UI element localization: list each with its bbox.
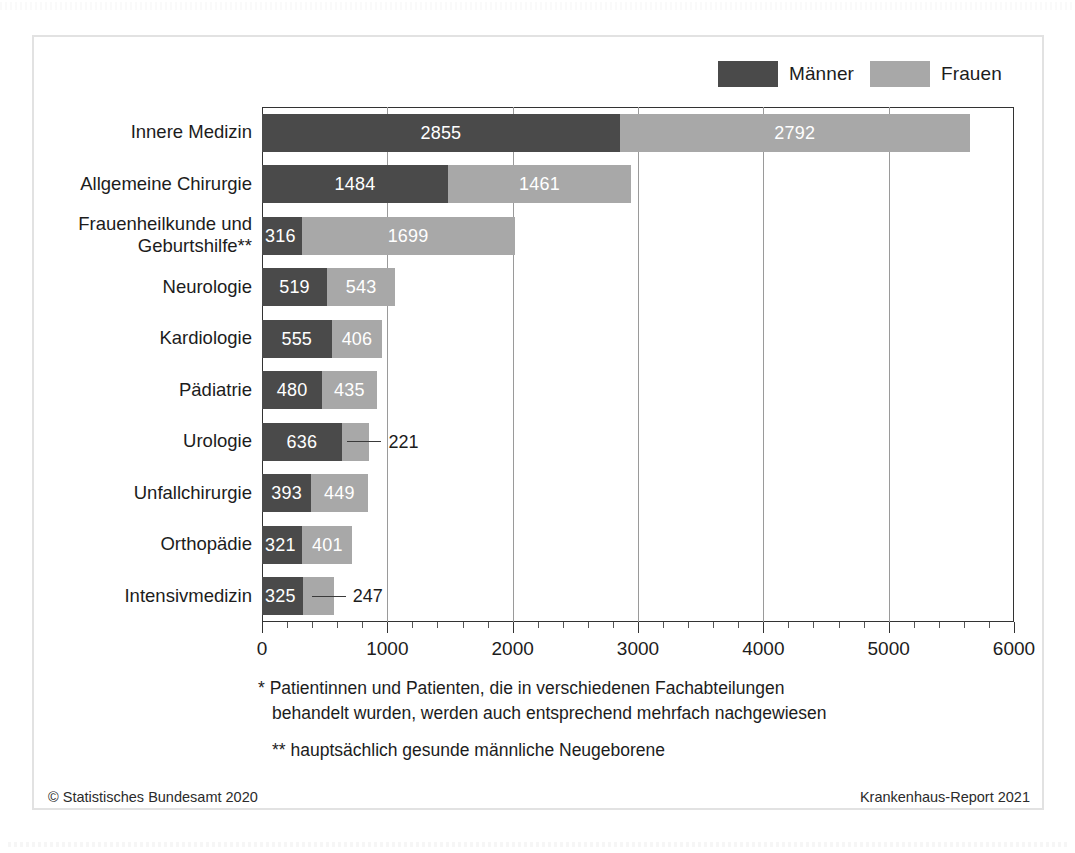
- bar-value-label: 393: [262, 484, 311, 502]
- x-tick-label-0: 0: [257, 638, 268, 660]
- callout-value-label: 221: [388, 433, 418, 451]
- x-tick-minor-400: [312, 622, 313, 628]
- footnote-one: * Patientinnen und Patienten, die in ver…: [258, 676, 958, 726]
- chart-legend: Männer Frauen: [718, 61, 1002, 87]
- y-axis-label-line: Orthopädie: [12, 533, 252, 556]
- bar-segment-männer[interactable]: 393: [262, 474, 311, 512]
- x-tick-minor-1800: [488, 622, 489, 628]
- bar-value-label: 2792: [620, 124, 970, 142]
- bar-value-label: 325: [262, 587, 303, 605]
- bar-segment-männer[interactable]: 555: [262, 320, 332, 358]
- y-axis-label-p-diatrie: Pädiatrie: [12, 379, 252, 402]
- bar-row[interactable]: 555406: [262, 320, 382, 358]
- x-tick-minor-4800: [864, 622, 865, 628]
- x-tick-minor-2800: [613, 622, 614, 628]
- bar-segment-männer[interactable]: 519: [262, 268, 327, 306]
- bar-value-label: 1484: [262, 175, 448, 193]
- x-tick-minor-5200: [914, 622, 915, 628]
- bar-row[interactable]: 14841461: [262, 165, 631, 203]
- x-tick-minor-2200: [538, 622, 539, 628]
- y-axis-label-line: Intensivmedizin: [12, 585, 252, 608]
- x-tick-major-0: [262, 622, 263, 633]
- x-tick-label-5000: 5000: [868, 638, 910, 660]
- bar-value-label: 519: [262, 278, 327, 296]
- x-tick-minor-800: [362, 622, 363, 628]
- bar-segment-frauen[interactable]: [303, 577, 334, 615]
- x-tick-label-4000: 4000: [742, 638, 784, 660]
- y-axis-label-innere-medizin: Innere Medizin: [12, 121, 252, 144]
- y-axis-label-line: Frauenheilkunde und: [12, 213, 252, 236]
- legend-entry-frauen: Frauen: [870, 61, 1002, 87]
- bar-row[interactable]: 3161699: [262, 217, 515, 255]
- x-tick-minor-4600: [839, 622, 840, 628]
- x-axis: 0100020003000400050006000: [262, 622, 1014, 668]
- legend-swatch-frauen: [870, 61, 930, 87]
- x-tick-minor-200: [287, 622, 288, 628]
- x-tick-major-4000: [763, 622, 764, 633]
- bar-segment-männer[interactable]: 325: [262, 577, 303, 615]
- x-tick-minor-5400: [939, 622, 940, 628]
- x-tick-label-1000: 1000: [366, 638, 408, 660]
- y-axis-label-line: Neurologie: [12, 276, 252, 299]
- legend-label-frauen: Frauen: [941, 63, 1002, 85]
- y-axis-label-urologie: Urologie: [12, 430, 252, 453]
- bar-segment-frauen[interactable]: 406: [332, 320, 383, 358]
- bar-segment-männer[interactable]: 316: [262, 217, 302, 255]
- bar-row[interactable]: 393449: [262, 474, 368, 512]
- bar-row[interactable]: 480435: [262, 371, 377, 409]
- bar-segment-frauen[interactable]: 2792: [620, 114, 970, 152]
- y-axis-label-line: Innere Medizin: [12, 121, 252, 144]
- bar-value-label: 401: [302, 536, 352, 554]
- footnote-one-line-a: * Patientinnen und Patienten, die in ver…: [258, 678, 784, 698]
- x-tick-minor-1600: [463, 622, 464, 628]
- bar-segment-männer[interactable]: 2855: [262, 114, 620, 152]
- x-tick-minor-1200: [412, 622, 413, 628]
- y-axis-label-line: Kardiologie: [12, 327, 252, 350]
- bar-segment-frauen[interactable]: 449: [311, 474, 367, 512]
- credits-row: © Statistisches Bundesamt 2020 Krankenha…: [48, 789, 1030, 805]
- bar-segment-frauen[interactable]: 1699: [302, 217, 515, 255]
- bar-row[interactable]: 519543: [262, 268, 395, 306]
- bar-segment-frauen[interactable]: 435: [322, 371, 377, 409]
- scan-artifact-bottom: [8, 842, 1067, 847]
- y-axis-label-kardiologie: Kardiologie: [12, 327, 252, 350]
- y-axis-label-allgemeine-chirurgie: Allgemeine Chirurgie: [12, 173, 252, 196]
- y-axis-label-line: Geburtshilfe**: [12, 235, 252, 258]
- bar-segment-frauen[interactable]: 543: [327, 268, 395, 306]
- figure-page: Männer Frauen Innere MedizinAllgemeine C…: [0, 0, 1075, 853]
- x-tick-minor-4400: [813, 622, 814, 628]
- credit-report: Krankenhaus-Report 2021: [860, 789, 1030, 805]
- bar-segment-frauen[interactable]: 401: [302, 526, 352, 564]
- x-tick-minor-3400: [688, 622, 689, 628]
- bar-segment-frauen[interactable]: [342, 423, 370, 461]
- legend-swatch-maenner: [718, 61, 778, 87]
- footnote-one-line-b: behandelt wurden, werden auch entspreche…: [258, 701, 958, 726]
- bar-segment-männer[interactable]: 321: [262, 526, 302, 564]
- x-tick-minor-3800: [738, 622, 739, 628]
- bar-row[interactable]: 321401: [262, 526, 352, 564]
- y-axis-label-line: Unfallchirurgie: [12, 482, 252, 505]
- y-axis-label-intensivmedizin: Intensivmedizin: [12, 585, 252, 608]
- x-tick-minor-5800: [989, 622, 990, 628]
- bar-segment-männer[interactable]: 636: [262, 423, 342, 461]
- bar-value-label: 480: [262, 381, 322, 399]
- y-axis-label-orthop-die: Orthopädie: [12, 533, 252, 556]
- y-axis-label-line: Allgemeine Chirurgie: [12, 173, 252, 196]
- bar-segment-männer[interactable]: 480: [262, 371, 322, 409]
- bar-segment-frauen[interactable]: 1461: [448, 165, 631, 203]
- bar-row[interactable]: 636: [262, 423, 369, 461]
- x-tick-label-2000: 2000: [492, 638, 534, 660]
- x-tick-minor-2600: [588, 622, 589, 628]
- legend-label-maenner: Männer: [789, 63, 854, 85]
- x-tick-minor-3200: [663, 622, 664, 628]
- x-tick-minor-2400: [563, 622, 564, 628]
- x-tick-major-3000: [638, 622, 639, 633]
- x-tick-label-3000: 3000: [617, 638, 659, 660]
- scan-artifact-top: [0, 2, 1075, 10]
- legend-entry-maenner: Männer: [718, 61, 854, 87]
- bar-segment-männer[interactable]: 1484: [262, 165, 448, 203]
- bar-row[interactable]: 325: [262, 577, 334, 615]
- bar-value-label: 449: [311, 484, 367, 502]
- y-axis-label-line: Pädiatrie: [12, 379, 252, 402]
- bar-row[interactable]: 28552792: [262, 114, 970, 152]
